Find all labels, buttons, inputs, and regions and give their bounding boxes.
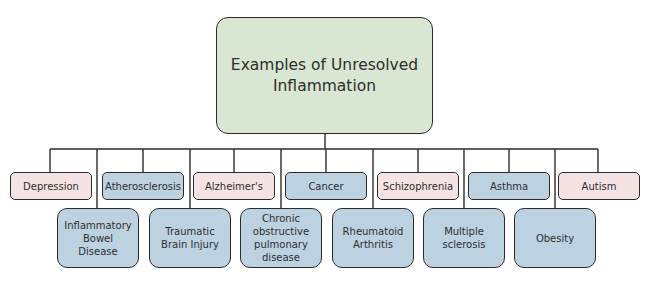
node-obesity: Obesity: [514, 208, 596, 268]
node-asthma: Asthma: [468, 172, 550, 200]
node-label: Traumatic Brain Injury: [154, 225, 226, 251]
node-alzheimers: Alzheimer's: [193, 172, 275, 200]
node-traumatic-brain-injury: Traumatic Brain Injury: [149, 208, 231, 268]
node-label: Autism: [582, 180, 617, 193]
node-label: Chronic obstructive pulmonary disease: [245, 212, 317, 264]
node-depression: Depression: [10, 172, 92, 200]
node-schizophrenia: Schizophrenia: [377, 172, 459, 200]
node-autism: Autism: [558, 172, 640, 200]
node-label: Inflammatory Bowel Disease: [62, 219, 134, 258]
node-atherosclerosis: Atherosclerosis: [102, 172, 184, 200]
node-multiple-sclerosis: Multiple sclerosis: [423, 208, 505, 268]
node-rheumatoid-arthritis: Rheumatoid Arthritis: [332, 208, 414, 268]
node-copd: Chronic obstructive pulmonary disease: [240, 208, 322, 268]
node-label: Multiple sclerosis: [428, 225, 500, 251]
node-label: Asthma: [490, 180, 528, 193]
node-label: Rheumatoid Arthritis: [337, 225, 409, 251]
root-title: Examples of Unresolved Inflammation: [227, 55, 422, 97]
node-label: Atherosclerosis: [105, 180, 181, 193]
node-inflammatory-bowel-disease: Inflammatory Bowel Disease: [57, 208, 139, 268]
node-label: Alzheimer's: [205, 180, 263, 193]
node-label: Schizophrenia: [383, 180, 453, 193]
node-cancer: Cancer: [285, 172, 367, 200]
node-label: Obesity: [536, 232, 574, 245]
root-node: Examples of Unresolved Inflammation: [216, 17, 433, 134]
node-label: Cancer: [308, 180, 343, 193]
node-label: Depression: [23, 180, 79, 193]
